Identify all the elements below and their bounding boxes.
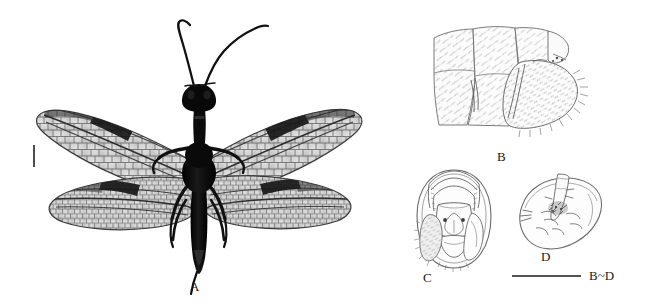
- figure-plate: A: [0, 0, 647, 305]
- panel-c-drawing: [398, 163, 510, 281]
- denticle-cluster: [548, 201, 568, 215]
- panel-d-genitalia-oblique: D: [508, 166, 612, 260]
- ectoproct-lobe: [503, 61, 588, 137]
- panel-b-label: B: [497, 150, 506, 163]
- bd-scale-caption: B~D: [589, 269, 614, 282]
- panel-c-label: C: [423, 271, 432, 284]
- gonopore-mark-left: [443, 218, 447, 222]
- right-hindwing: [199, 176, 350, 229]
- bd-scale-bar-line: [510, 270, 585, 282]
- panel-b-terminalia-lateral: B: [415, 18, 595, 143]
- panel-a-habitus-photo: A: [0, 0, 390, 305]
- bd-scale-bar: [510, 270, 585, 282]
- panel-d-drawing: [508, 166, 612, 260]
- panel-b-drawing: [415, 18, 595, 143]
- panel-c-genitalia-ventral: C: [398, 163, 510, 281]
- antennae: [178, 20, 268, 86]
- abdominal-segment-1: [434, 29, 475, 125]
- panel-a-label: A: [190, 280, 200, 293]
- panel-a-drawing: [0, 0, 390, 305]
- apical-cap: [548, 31, 569, 63]
- gonopore-mark-right: [461, 218, 465, 222]
- panel-d-label: D: [541, 250, 551, 263]
